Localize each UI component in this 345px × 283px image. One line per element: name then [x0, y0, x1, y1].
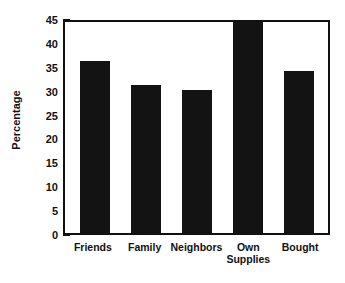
y-tick-label: 10 — [32, 181, 58, 193]
bar-slot — [222, 22, 273, 233]
bar-bought — [284, 71, 314, 233]
x-category-label: Friends — [67, 241, 119, 265]
bar-slot — [273, 22, 324, 233]
bar-slot — [69, 22, 120, 233]
bar-chart: Percentage 454035302520151050 FriendsFam… — [0, 0, 345, 283]
bar-series — [65, 22, 328, 233]
x-category-label: Neighbors — [171, 241, 223, 265]
x-category-label: Bought — [274, 241, 326, 265]
y-tick-label: 25 — [32, 110, 58, 122]
y-tick-label: 15 — [32, 157, 58, 169]
y-tick-label: 35 — [32, 62, 58, 74]
y-tick-label: 5 — [32, 205, 58, 217]
bar-friends — [80, 61, 110, 233]
y-tick-label: 45 — [32, 14, 58, 26]
bar-slot — [120, 22, 171, 233]
y-tick-label: 20 — [32, 133, 58, 145]
y-axis-ticks: 454035302520151050 — [0, 0, 58, 283]
bar-slot — [171, 22, 222, 233]
x-axis-categories: FriendsFamilyNeighborsOwnSuppliesBought — [63, 241, 330, 265]
y-tick-label: 40 — [32, 38, 58, 50]
y-tick-label: 0 — [32, 229, 58, 241]
x-category-label: OwnSupplies — [222, 241, 274, 265]
x-category-label: Family — [119, 241, 171, 265]
bar-family — [131, 85, 161, 233]
plot-area — [63, 20, 330, 235]
y-tick-label: 30 — [32, 86, 58, 98]
bar-own-supplies — [233, 22, 263, 233]
bar-neighbors — [182, 90, 212, 233]
